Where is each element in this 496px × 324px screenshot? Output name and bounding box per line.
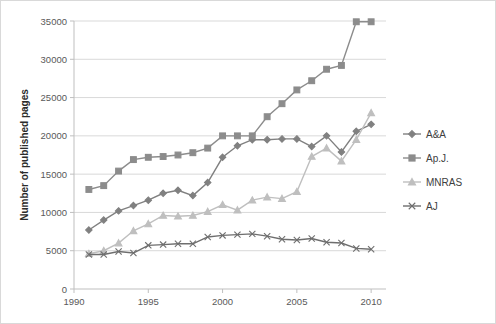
legend-label: AJ xyxy=(426,201,438,212)
marker-triangle xyxy=(353,136,360,142)
chart-svg: 0500010000150002000025000300003500019901… xyxy=(1,1,496,324)
y-tick-label: 15000 xyxy=(41,169,67,180)
marker-square xyxy=(205,145,211,151)
series-aa xyxy=(86,121,375,233)
marker-diamond xyxy=(368,121,374,127)
legend-item-apj[interactable]: Ap.J. xyxy=(403,153,449,164)
series-apj xyxy=(86,19,374,192)
marker-square xyxy=(235,133,241,139)
marker-square xyxy=(175,152,181,158)
marker-square xyxy=(368,19,374,25)
marker-diamond xyxy=(175,187,181,193)
x-tick-label: 2005 xyxy=(286,296,307,307)
legend-item-aa[interactable]: A&A xyxy=(403,129,446,140)
marker-diamond xyxy=(264,136,270,142)
marker-square xyxy=(145,154,151,160)
marker-triangle xyxy=(130,227,137,233)
marker-triangle xyxy=(368,109,375,115)
y-tick-label: 35000 xyxy=(41,16,67,27)
y-tick-label: 0 xyxy=(62,284,67,295)
marker-triangle xyxy=(308,153,315,159)
marker-square xyxy=(86,187,92,193)
marker-triangle xyxy=(204,208,211,214)
marker-square xyxy=(160,154,166,160)
legend-label: Ap.J. xyxy=(426,153,449,164)
y-tick-label: 30000 xyxy=(41,54,67,65)
marker-triangle xyxy=(323,145,330,151)
marker-square xyxy=(279,101,285,107)
legend-item-mnras[interactable]: MNRAS xyxy=(403,177,462,188)
marker-square xyxy=(220,133,226,139)
marker-diamond xyxy=(279,136,285,142)
x-tick-label: 1995 xyxy=(138,296,159,307)
marker-diamond xyxy=(115,208,121,214)
marker-diamond xyxy=(130,202,136,208)
chart-container: 0500010000150002000025000300003500019901… xyxy=(0,0,496,324)
marker-square xyxy=(294,87,300,93)
marker-square xyxy=(409,155,415,161)
marker-square xyxy=(131,157,137,163)
marker-triangle xyxy=(293,188,300,194)
legend: A&AAp.J.MNRASAJ xyxy=(403,129,462,212)
y-axis-title: Number of published pages xyxy=(19,89,30,221)
x-tick-label: 1990 xyxy=(63,296,84,307)
legend-label: MNRAS xyxy=(426,177,462,188)
marker-square xyxy=(101,183,107,189)
marker-triangle xyxy=(145,221,152,227)
y-tick-label: 25000 xyxy=(41,92,67,103)
legend-item-aj[interactable]: AJ xyxy=(403,201,438,212)
series-line xyxy=(89,124,371,230)
marker-diamond xyxy=(160,190,166,196)
marker-diamond xyxy=(294,136,300,142)
marker-diamond xyxy=(409,131,416,138)
x-tick-label: 2000 xyxy=(212,296,233,307)
y-tick-label: 5000 xyxy=(46,245,67,256)
series-line xyxy=(89,22,371,190)
marker-square xyxy=(339,63,345,69)
x-tick-label: 2010 xyxy=(361,296,382,307)
marker-square xyxy=(116,168,122,174)
marker-square xyxy=(353,19,359,25)
marker-square xyxy=(190,150,196,156)
legend-label: A&A xyxy=(426,129,446,140)
marker-triangle xyxy=(219,201,226,207)
y-tick-label: 20000 xyxy=(41,130,67,141)
marker-square xyxy=(249,133,255,139)
y-tick-label: 10000 xyxy=(41,207,67,218)
marker-square xyxy=(309,78,315,84)
marker-square xyxy=(264,114,270,120)
marker-diamond xyxy=(145,197,151,203)
marker-square xyxy=(324,66,330,72)
